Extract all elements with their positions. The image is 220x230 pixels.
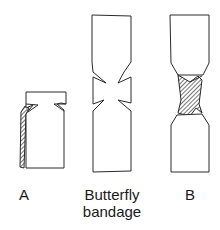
figure-a-bandage [20, 92, 66, 168]
label-butterfly-bandage: Butterfly bandage [72, 186, 152, 220]
figure-b-top-section [170, 15, 209, 75]
figure-b-bottom-section [171, 114, 209, 172]
figure-a-outline [26, 92, 66, 168]
figure-b-hatched-center [178, 75, 202, 116]
label-butterfly-line-1: Butterfly [72, 186, 152, 203]
label-b: B [178, 186, 202, 203]
figure-b-bandage [170, 15, 209, 172]
label-a: A [12, 186, 36, 203]
butterfly-outline [92, 15, 131, 172]
label-butterfly-line-2: bandage [72, 203, 152, 220]
figure-butterfly-bandage [92, 15, 131, 172]
